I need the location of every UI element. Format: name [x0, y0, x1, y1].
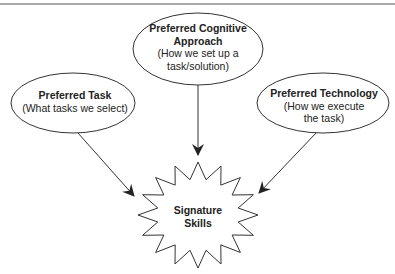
- technology-label: Preferred Technology (How we execute the…: [270, 87, 378, 125]
- technology-sub-line-1: (How we execute: [270, 100, 378, 113]
- technology-title-line-1: Preferred Technology: [270, 87, 378, 100]
- signature-label: Signature Skills: [174, 204, 222, 229]
- cognitive-title-line-2: Approach: [149, 35, 246, 48]
- arrow-technology-to-signature: [259, 133, 316, 193]
- diagram-canvas: Preferred Cognitive Approach (How we set…: [0, 0, 395, 274]
- signature-title-line-2: Skills: [174, 216, 222, 229]
- cognitive-sub-line-2: task/solution): [149, 60, 246, 73]
- task-label: Preferred Task (What tasks we select): [22, 89, 128, 114]
- cognitive-label: Preferred Cognitive Approach (How we set…: [149, 22, 246, 72]
- task-title-line-1: Preferred Task: [22, 89, 128, 102]
- signature-title-line-1: Signature: [174, 204, 222, 217]
- cognitive-title-line-1: Preferred Cognitive: [149, 22, 246, 35]
- arrow-task-to-signature: [78, 133, 134, 196]
- task-sub-line-1: (What tasks we select): [22, 101, 128, 114]
- cognitive-sub-line-1: (How we set up a: [149, 47, 246, 60]
- technology-sub-line-2: the task): [270, 112, 378, 125]
